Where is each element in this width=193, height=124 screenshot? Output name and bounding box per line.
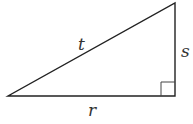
label-vertical-leg: s (181, 41, 190, 61)
label-hypotenuse: t (78, 34, 85, 54)
triangle (8, 3, 175, 96)
right-triangle-diagram: t s r (0, 0, 193, 124)
right-angle-marker (161, 82, 175, 96)
label-horizontal-leg: r (88, 100, 97, 120)
